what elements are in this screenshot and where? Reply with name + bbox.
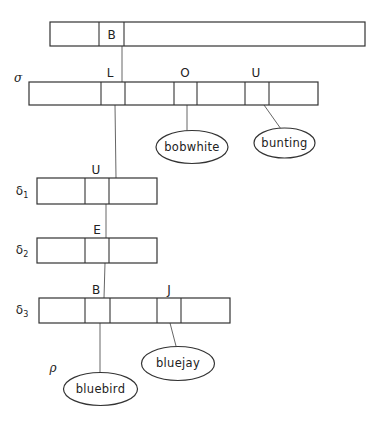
delta2-key-e: E xyxy=(93,223,101,237)
root-node: B xyxy=(50,22,365,46)
delta2-node-box xyxy=(37,238,157,263)
sigma-key-o: O xyxy=(180,66,189,80)
leaf-bunting: bunting xyxy=(254,128,315,158)
edge-delta3-to-bluejay xyxy=(170,323,176,346)
delta3-node: δ3 B J xyxy=(16,283,230,323)
leaf-bluejay-label: bluejay xyxy=(156,356,200,370)
delta3-node-box xyxy=(39,298,230,323)
delta1-label: δ1 xyxy=(16,184,28,200)
root-key-b: B xyxy=(107,28,115,42)
sigma-key-l: L xyxy=(107,66,114,80)
root-node-box xyxy=(50,22,365,46)
delta3-key-b: B xyxy=(92,283,100,297)
edge-delta2-to-delta3 xyxy=(104,263,105,298)
delta2-label: δ2 xyxy=(16,243,28,259)
leaf-bobwhite-label: bobwhite xyxy=(164,140,220,154)
delta1-key-u: U xyxy=(92,163,101,177)
sigma-label: σ xyxy=(14,71,23,85)
delta3-label: δ3 xyxy=(16,303,28,319)
sigma-node: σ L O U xyxy=(14,66,318,105)
trie-diagram: B σ L O U bobwhite bunting δ1 U δ2 E xyxy=(0,0,389,431)
leaf-bluebird: bluebird xyxy=(64,373,138,406)
rho-label: ρ xyxy=(48,361,56,375)
delta1-node: δ1 U xyxy=(16,163,157,204)
leaf-bluebird-label: bluebird xyxy=(76,382,126,396)
delta2-node: δ2 E xyxy=(16,223,157,263)
delta3-key-j: J xyxy=(166,283,171,297)
delta1-node-box xyxy=(37,178,157,204)
sigma-key-u: U xyxy=(252,66,261,80)
edge-sigma-to-delta1 xyxy=(115,105,116,178)
leaf-bobwhite: bobwhite xyxy=(156,131,228,164)
leaf-bluejay: bluejay xyxy=(142,347,215,381)
leaf-bunting-label: bunting xyxy=(261,136,307,150)
edge-sigma-to-bunting xyxy=(264,105,281,129)
